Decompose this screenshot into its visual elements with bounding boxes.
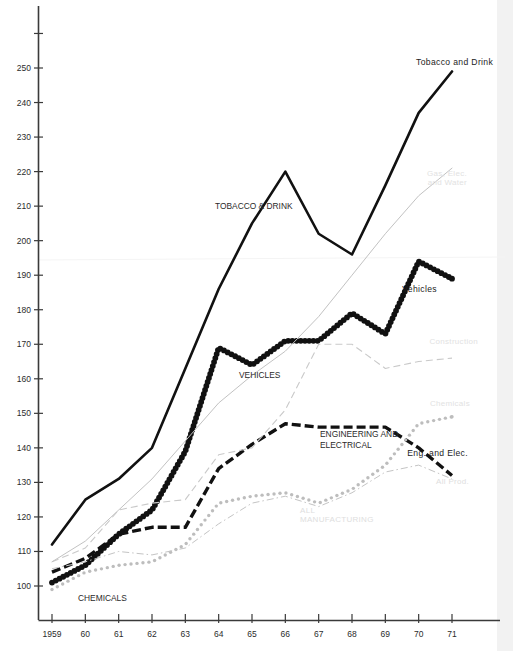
series-marker [180, 545, 183, 548]
series-marker [415, 424, 418, 427]
series-marker [272, 492, 275, 495]
x-tick-label: 67 [314, 629, 324, 639]
series-marker [400, 443, 403, 446]
series-marker [77, 574, 80, 577]
series-annotation-label: Construction [429, 337, 478, 346]
y-tick-label: 220 [17, 167, 31, 177]
series-marker [203, 518, 206, 521]
y-tick-label: 170 [17, 339, 31, 349]
series-marker [147, 560, 150, 563]
series-marker [389, 457, 392, 460]
series-marker [100, 567, 103, 570]
series-marker [381, 466, 384, 469]
y-tick-label: 160 [17, 374, 31, 384]
series-marker [330, 496, 333, 499]
series-marker [361, 480, 364, 483]
series-marker [346, 489, 349, 492]
series-marker [188, 537, 191, 540]
series-marker [123, 563, 126, 566]
series-annotation-label: Eng. and Elec. [407, 448, 468, 458]
series-marker [341, 492, 344, 495]
x-tick-label: 65 [247, 629, 257, 639]
series-marker [207, 514, 210, 517]
series-marker [301, 497, 304, 500]
y-tick-label: 100 [17, 581, 31, 591]
series-marker [215, 504, 218, 507]
series-annotation-label: VEHICLES [239, 370, 281, 380]
series-marker [307, 498, 310, 501]
series-marker [313, 500, 316, 503]
series-marker [164, 553, 167, 556]
series-marker [72, 577, 75, 580]
y-tick-label: 250 [17, 63, 31, 73]
x-tick-label: 70 [414, 629, 424, 639]
series-marker [56, 585, 59, 588]
series-annotation-label: ALL [300, 506, 315, 515]
y-tick-label: 150 [17, 408, 31, 418]
series-annotation-label: TOBACCO & DRINK [215, 201, 293, 211]
series-annotation-label: All Prod. [436, 477, 469, 486]
x-tick-label: 64 [214, 629, 224, 639]
series-annotation-label: CHEMICALS [78, 593, 127, 603]
series-marker [158, 556, 161, 559]
y-tick-label: 190 [17, 270, 31, 280]
x-tick-label: 1959 [43, 629, 62, 639]
x-tick-label: 63 [181, 629, 191, 639]
series-marker [450, 415, 453, 418]
y-tick-label: 130 [17, 477, 31, 487]
series-marker [266, 493, 269, 496]
series-marker [106, 566, 109, 569]
series-marker [254, 494, 257, 497]
series-marker [396, 447, 399, 450]
series-marker [94, 568, 97, 571]
series-marker [356, 483, 359, 486]
series-marker [61, 582, 64, 585]
y-tick-label: 140 [17, 443, 31, 453]
series-annotation-label: Vehicles [402, 284, 437, 294]
series-marker [231, 499, 234, 502]
series-annotation-label: MANUFACTURING [300, 515, 374, 524]
y-tick-label: 210 [17, 201, 31, 211]
series-marker [352, 487, 355, 490]
x-tick-label: 71 [447, 629, 457, 639]
y-tick-label: 110 [17, 546, 31, 556]
series-marker [449, 276, 455, 282]
series-annotation-label: Tobacco and Drink [416, 57, 493, 67]
series-marker [117, 564, 120, 567]
series-annotation-label: ENGINEERING AND [320, 429, 398, 439]
series-marker [260, 493, 263, 496]
x-tick-label: 68 [347, 629, 357, 639]
series-marker [319, 501, 322, 504]
y-tick-label: 230 [17, 132, 31, 142]
series-marker [290, 493, 293, 496]
series-marker [420, 421, 423, 424]
series-marker [50, 588, 53, 591]
series-marker [426, 420, 429, 423]
series-marker [200, 523, 203, 526]
series-marker [225, 500, 228, 503]
chart-root: 1001101201301401501601701801902002102202… [0, 0, 513, 651]
y-tick-label: 120 [17, 512, 31, 522]
series-marker [393, 452, 396, 455]
series-marker [211, 509, 214, 512]
series-marker [324, 498, 327, 501]
series-marker [88, 570, 91, 573]
series-marker [219, 501, 222, 504]
series-marker [366, 476, 369, 479]
x-tick-label: 60 [81, 629, 91, 639]
page-edge-shadow [497, 0, 513, 651]
series-marker [82, 571, 85, 574]
series-marker [129, 562, 132, 565]
series-marker [385, 462, 388, 465]
series-marker [243, 496, 246, 499]
x-tick-label: 66 [281, 629, 291, 639]
series-annotation-label: and Water [428, 178, 467, 187]
series-marker [284, 491, 287, 494]
y-tick-label: 180 [17, 305, 31, 315]
series-marker [408, 433, 411, 436]
series-marker [376, 469, 379, 472]
series-marker [66, 579, 69, 582]
series-annotation-label: Gas, Elec. [427, 169, 467, 178]
series-marker [153, 559, 156, 562]
series-marker [404, 438, 407, 441]
